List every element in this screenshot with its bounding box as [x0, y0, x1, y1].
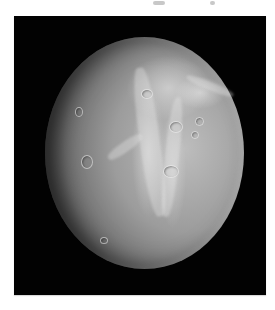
crater — [141, 89, 153, 99]
bright-fracture-band — [185, 73, 234, 99]
crater — [191, 131, 199, 139]
crater — [163, 165, 179, 178]
crater — [169, 121, 183, 133]
crater — [100, 237, 108, 244]
crater — [81, 155, 93, 169]
bright-fracture-band — [159, 97, 185, 218]
moon-photo — [14, 16, 266, 295]
text-descender-fragment — [210, 1, 215, 5]
text-descender-fragment — [153, 1, 165, 5]
bright-fracture-band — [106, 131, 145, 162]
crater — [75, 107, 83, 117]
cropped-caption-fragment — [0, 0, 275, 8]
crater — [195, 117, 204, 126]
moon-disk — [45, 37, 244, 269]
